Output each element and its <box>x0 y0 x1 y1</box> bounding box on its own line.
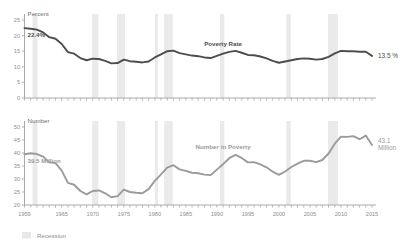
recession-swatch <box>22 232 31 239</box>
recession-band <box>92 14 98 98</box>
start-value-label: 22.4% <box>28 31 46 38</box>
data-line-poverty-rate <box>25 28 373 63</box>
y-tick-label: 35 <box>14 163 20 169</box>
x-tick-label: 2010 <box>335 211 347 217</box>
x-tick-label: 1995 <box>242 211 254 217</box>
y-tick-label: 45 <box>14 137 20 143</box>
x-tick-label: 2015 <box>366 211 378 217</box>
recession-band <box>33 14 38 98</box>
x-tick-label: 1959 <box>18 211 30 217</box>
axis-title-number-in-poverty: Number <box>28 117 50 124</box>
y-tick-label: 20 <box>14 33 20 39</box>
recession-bands <box>33 121 338 205</box>
x-tick-label: 1975 <box>118 211 130 217</box>
x-tick-label-group: 1959196519701975198019851990199520002005… <box>18 211 378 217</box>
recession-band <box>220 14 224 98</box>
start-value-label: 39.5 Million <box>28 157 62 164</box>
y-tick-label: 40 <box>14 150 20 156</box>
x-tick-label: 1980 <box>149 211 161 217</box>
y-tick-label: 50 <box>14 124 20 130</box>
panel-poverty-rate: 0510152025Percent22.4%13.5 %Poverty Rate <box>14 10 398 101</box>
series-name-label: Poverty Rate <box>204 40 242 47</box>
annotation-group: 39.5 Million43.1MillionNumber in Poverty <box>28 137 397 164</box>
poverty-figure: 0510152025Percent22.4%13.5 %Poverty Rate… <box>0 0 404 248</box>
annotation-group: 22.4%13.5 %Poverty Rate <box>28 31 399 59</box>
legend: Recession <box>22 232 66 239</box>
series-name-label: Number in Poverty <box>196 143 252 150</box>
recession-band <box>286 14 290 98</box>
y-tick-label: 0 <box>17 95 20 101</box>
y-tick-label: 5 <box>17 79 20 85</box>
axis-title-poverty-rate: Percent <box>28 10 50 17</box>
x-tick-label: 1990 <box>211 211 223 217</box>
x-tick-label: 1970 <box>87 211 99 217</box>
y-tick-group: 20253035404550 <box>14 124 25 208</box>
end-value-label-line2: Million <box>378 144 397 151</box>
chart-canvas: 0510152025Percent22.4%13.5 %Poverty Rate… <box>0 0 404 248</box>
end-value-label-line1: 43.1 <box>378 137 391 144</box>
end-value-label: 13.5 % <box>378 52 398 59</box>
y-tick-label: 25 <box>14 189 20 195</box>
x-tick-label: 1985 <box>180 211 192 217</box>
recession-band <box>164 14 173 98</box>
x-tick-label: 2005 <box>304 211 316 217</box>
legend-label: Recession <box>37 232 66 239</box>
recession-band <box>286 121 290 205</box>
panel-number-in-poverty: 2025303540455019591965197019751980198519… <box>14 117 397 217</box>
x-tick-label: 2000 <box>273 211 285 217</box>
y-tick-label: 25 <box>14 17 20 23</box>
recession-band <box>92 121 98 205</box>
recession-band <box>328 121 338 205</box>
x-tick-label: 1965 <box>56 211 68 217</box>
y-tick-group: 0510152025 <box>14 17 25 101</box>
y-tick-label: 10 <box>14 64 20 70</box>
y-tick-label: 15 <box>14 48 20 54</box>
recession-band <box>117 14 125 98</box>
y-tick-label: 30 <box>14 176 20 182</box>
recession-band <box>155 121 158 205</box>
y-tick-label: 20 <box>14 202 20 208</box>
recession-band <box>164 121 173 205</box>
